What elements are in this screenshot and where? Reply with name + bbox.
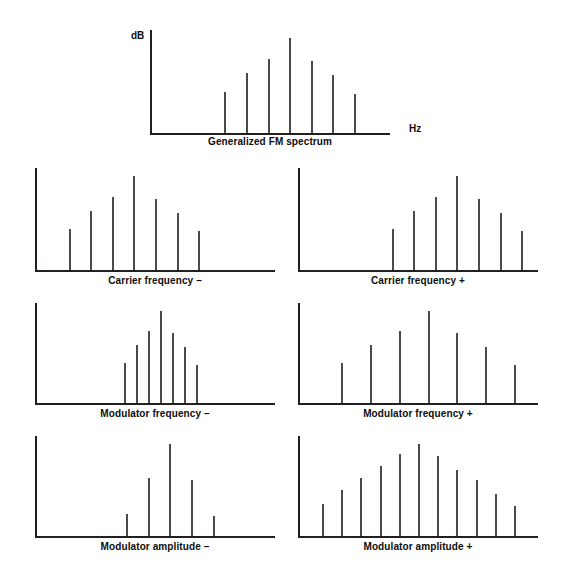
- spectral-line: [133, 176, 135, 270]
- spectral-line: [354, 94, 356, 133]
- x-axis: [298, 403, 538, 405]
- spectral-line: [246, 73, 248, 133]
- spectral-line: [456, 176, 458, 270]
- spectral-line: [380, 466, 382, 536]
- spectral-line: [112, 197, 114, 270]
- spectral-line: [485, 347, 487, 403]
- spectral-lines-modulator-frequency-plus: [298, 303, 538, 403]
- y-axis-label: dB: [131, 30, 144, 41]
- spectral-line: [148, 331, 150, 403]
- spectral-line: [456, 333, 458, 403]
- spectral-line: [124, 363, 126, 403]
- spectral-line: [169, 444, 171, 536]
- spectral-lines-carrier-frequency-minus: [35, 168, 275, 270]
- chart-panel-modulator-frequency-minus: [35, 303, 275, 405]
- spectral-line: [476, 480, 478, 536]
- spectral-line: [191, 480, 193, 536]
- spectral-line: [341, 363, 343, 403]
- spectral-line: [495, 494, 497, 536]
- panel-caption-generalized-fm-spectrum: Generalized FM spectrum: [150, 136, 390, 147]
- x-axis: [35, 270, 275, 272]
- spectral-line: [500, 213, 502, 270]
- spectral-line: [213, 516, 215, 536]
- spectral-line: [196, 365, 198, 403]
- spectral-line: [289, 38, 291, 133]
- x-axis-label: Hz: [409, 123, 421, 134]
- spectral-line: [360, 478, 362, 536]
- chart-panel-carrier-frequency-minus: [35, 168, 275, 272]
- chart-panel-modulator-amplitude-plus: [298, 436, 538, 538]
- spectral-line: [341, 490, 343, 536]
- panel-caption-modulator-frequency-minus: Modulator frequency –: [35, 408, 275, 419]
- spectral-line: [198, 231, 200, 270]
- spectral-line: [90, 211, 92, 270]
- spectral-line: [428, 311, 430, 403]
- spectral-lines-top: [150, 30, 390, 133]
- spectral-line: [399, 454, 401, 536]
- spectral-line: [392, 229, 394, 270]
- spectral-line: [418, 444, 420, 536]
- spectral-line: [172, 333, 174, 403]
- fm-spectrum-figure: dB Hz Generalized FM spectrum Carrier fr…: [0, 0, 563, 569]
- spectral-line: [126, 514, 128, 536]
- spectral-line: [268, 59, 270, 133]
- spectral-line: [514, 506, 516, 536]
- spectral-lines-modulator-frequency-minus: [35, 303, 275, 403]
- spectral-lines-carrier-frequency-plus: [298, 168, 538, 270]
- spectral-line: [224, 92, 226, 133]
- panel-caption-modulator-amplitude-plus: Modulator amplitude +: [298, 541, 538, 552]
- spectral-line: [478, 199, 480, 270]
- chart-panel-modulator-amplitude-minus: [35, 436, 275, 538]
- panel-caption-carrier-frequency-minus: Carrier frequency –: [35, 275, 275, 286]
- chart-panel-generalized-fm-spectrum: [150, 30, 390, 135]
- spectral-lines-modulator-amplitude-minus: [35, 436, 275, 536]
- spectral-line: [148, 478, 150, 536]
- spectral-line: [136, 345, 138, 403]
- spectral-line: [311, 61, 313, 133]
- spectral-line: [456, 470, 458, 536]
- spectral-line: [514, 365, 516, 403]
- x-axis: [35, 403, 275, 405]
- spectral-line: [399, 331, 401, 403]
- spectral-line: [160, 311, 162, 403]
- x-axis: [298, 270, 538, 272]
- x-axis: [298, 536, 538, 538]
- panel-caption-modulator-frequency-plus: Modulator frequency +: [298, 408, 538, 419]
- spectral-line: [370, 345, 372, 403]
- spectral-line: [413, 211, 415, 270]
- x-axis: [35, 536, 275, 538]
- spectral-line: [521, 231, 523, 270]
- chart-panel-carrier-frequency-plus: [298, 168, 538, 272]
- panel-caption-carrier-frequency-plus: Carrier frequency +: [298, 275, 538, 286]
- spectral-line: [69, 229, 71, 270]
- panel-caption-modulator-amplitude-minus: Modulator amplitude –: [35, 541, 275, 552]
- spectral-line: [184, 347, 186, 403]
- spectral-lines-modulator-amplitude-plus: [298, 436, 538, 536]
- spectral-line: [177, 213, 179, 270]
- x-axis: [150, 133, 390, 135]
- spectral-line: [322, 504, 324, 536]
- chart-panel-modulator-frequency-plus: [298, 303, 538, 405]
- spectral-line: [155, 199, 157, 270]
- spectral-line: [437, 456, 439, 536]
- spectral-line: [435, 197, 437, 270]
- spectral-line: [332, 75, 334, 133]
